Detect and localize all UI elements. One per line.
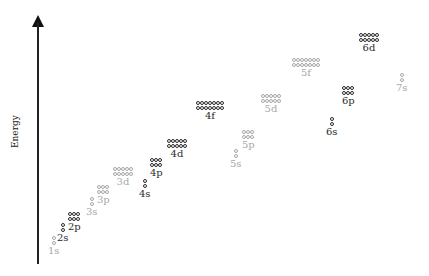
orbital-boxes — [113, 167, 133, 176]
orbital-boxes — [261, 94, 281, 103]
orbital-label: 4s — [139, 189, 151, 199]
orbital-boxes — [167, 139, 187, 148]
orbital-7s: 7s — [396, 73, 408, 93]
orbital-4p: 4p — [150, 158, 163, 178]
electron-pair-icon — [143, 179, 147, 188]
orbital-3d: 3d — [113, 167, 133, 187]
orbital-boxes — [242, 130, 255, 139]
orbital-5s: 5s — [230, 149, 242, 169]
orbital-6p: 6p — [342, 86, 355, 106]
orbital-boxes — [396, 73, 408, 82]
electron-pair-icon — [52, 236, 56, 245]
orbital-label: 6s — [326, 127, 338, 137]
electron-pair-icon — [76, 212, 80, 221]
orbital-6s: 6s — [326, 117, 338, 137]
orbital-boxes — [326, 117, 338, 126]
orbital-label: 7s — [396, 83, 408, 93]
electron-pair-icon — [61, 223, 65, 232]
electron-pair-icon — [158, 158, 162, 167]
axis-label: Energy — [10, 115, 20, 148]
orbital-3p: 3p — [97, 185, 110, 205]
orbital-label: 3p — [97, 195, 110, 205]
orbital-2s: 2s — [57, 223, 69, 243]
orbital-energy-diagram: Energy 1s2s2p3s3p3d4s4p4d4f5s5p5d5f6s6p6… — [0, 0, 429, 276]
energy-axis — [37, 22, 39, 264]
orbital-5f: 5f — [292, 58, 320, 78]
electron-pair-icon — [400, 73, 404, 82]
orbital-boxes — [230, 149, 242, 158]
orbital-label: 2s — [57, 233, 69, 243]
orbital-label: 4d — [167, 149, 187, 159]
orbital-2p: 2p — [68, 212, 81, 232]
electron-pair-icon — [330, 117, 334, 126]
orbital-label: 3s — [86, 207, 98, 217]
orbital-3s: 3s — [86, 197, 98, 217]
orbital-4s: 4s — [139, 179, 151, 199]
electron-pair-icon — [129, 167, 133, 176]
orbital-boxes — [150, 158, 163, 167]
orbital-boxes — [86, 197, 98, 206]
electron-pair-icon — [234, 149, 238, 158]
electron-pair-icon — [250, 130, 254, 139]
orbital-boxes — [57, 223, 69, 232]
orbital-4f: 4f — [196, 101, 224, 121]
orbital-label: 5s — [230, 159, 242, 169]
electron-pair-icon — [350, 86, 354, 95]
orbital-boxes — [139, 179, 151, 188]
orbital-label: 4f — [196, 111, 224, 121]
orbital-label: 3d — [113, 177, 133, 187]
electron-pair-icon — [375, 33, 379, 42]
orbital-boxes — [359, 33, 379, 42]
orbital-boxes — [342, 86, 355, 95]
orbital-label: 4p — [150, 168, 163, 178]
electron-pair-icon — [90, 197, 94, 206]
orbital-4d: 4d — [167, 139, 187, 159]
orbital-label: 5f — [292, 68, 320, 78]
orbital-6d: 6d — [359, 33, 379, 53]
orbital-label: 2p — [68, 222, 81, 232]
orbital-5d: 5d — [261, 94, 281, 114]
orbital-label: 1s — [48, 246, 60, 256]
electron-pair-icon — [183, 139, 187, 148]
orbital-boxes — [292, 58, 320, 67]
orbital-boxes — [68, 212, 81, 221]
orbital-label: 5p — [242, 140, 255, 150]
electron-pair-icon — [277, 94, 281, 103]
electron-pair-icon — [316, 58, 320, 67]
orbital-label: 5d — [261, 104, 281, 114]
orbital-boxes — [97, 185, 110, 194]
electron-pair-icon — [220, 101, 224, 110]
orbital-boxes — [196, 101, 224, 110]
electron-pair-icon — [105, 185, 109, 194]
orbital-label: 6p — [342, 96, 355, 106]
orbital-label: 6d — [359, 43, 379, 53]
orbital-5p: 5p — [242, 130, 255, 150]
